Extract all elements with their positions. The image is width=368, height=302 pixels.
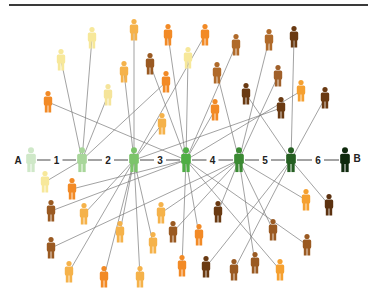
person-icon — [44, 91, 52, 113]
person-icon — [303, 234, 311, 256]
person-icon — [136, 266, 144, 288]
chain-person-icon-A — [26, 147, 36, 172]
person-icon — [80, 203, 88, 225]
chain-person-icon-n4 — [234, 147, 244, 172]
step-label-4: 4 — [210, 155, 216, 166]
person-icon — [68, 178, 76, 200]
step-label-3: 3 — [157, 155, 163, 166]
person-icon — [321, 87, 329, 109]
person-icon — [47, 200, 55, 222]
end-label-text: B — [353, 153, 360, 164]
network-graph: 123456AB — [0, 0, 368, 302]
person-icon — [47, 237, 55, 259]
person-icon — [120, 61, 128, 83]
person-icon — [265, 29, 273, 51]
person-icon — [116, 221, 124, 243]
person-icon — [202, 256, 210, 278]
person-icon — [230, 259, 238, 281]
chain-person-icon-n5 — [286, 147, 296, 172]
person-icon — [251, 252, 259, 274]
person-icon — [276, 259, 284, 281]
step-label-1: 1 — [54, 155, 60, 166]
person-icon — [178, 255, 186, 277]
person-icon — [325, 194, 333, 216]
step-label-2: 2 — [105, 155, 111, 166]
person-icon — [57, 49, 65, 71]
step-label-5: 5 — [262, 155, 268, 166]
six-degrees-diagram: 123456AB A B — [0, 0, 368, 302]
person-icon — [41, 171, 49, 193]
person-icon — [157, 202, 165, 224]
person-icon — [162, 71, 170, 93]
start-label-text: A — [14, 155, 21, 166]
connection-lines — [37, 30, 339, 277]
step-label-6: 6 — [315, 155, 321, 166]
person-icon — [100, 266, 108, 288]
person-icon — [195, 224, 203, 246]
person-icon — [277, 97, 285, 119]
person-icon — [274, 65, 282, 87]
person-icon — [242, 83, 250, 105]
person-icon — [104, 84, 112, 106]
person-icon — [211, 99, 219, 121]
person-icon — [232, 34, 240, 56]
person-icon — [65, 261, 73, 283]
person-icon — [269, 219, 277, 241]
person-icon — [302, 189, 310, 211]
chain-person-icon-n2 — [129, 147, 139, 172]
person-icon — [88, 27, 96, 49]
person-icon — [297, 80, 305, 102]
person-icon — [149, 232, 157, 254]
person-icon — [213, 62, 221, 84]
person-icon — [164, 24, 172, 46]
chain-person-icon-B — [340, 147, 350, 172]
person-icon — [146, 53, 154, 75]
person-icon — [169, 221, 177, 243]
person-icon — [201, 24, 209, 46]
